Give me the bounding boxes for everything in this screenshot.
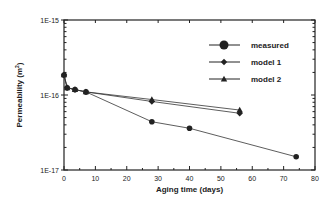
y-tick-label: 1E-17 <box>40 167 59 174</box>
series-line-measured <box>64 75 296 157</box>
x-tick-label: 50 <box>217 175 225 182</box>
x-axis-label: Aging time (days) <box>156 185 223 194</box>
x-tick-label: 60 <box>248 175 256 182</box>
x-tick-label: 70 <box>280 175 288 182</box>
x-tick-label: 10 <box>91 175 99 182</box>
legend-label: model 2 <box>251 75 282 84</box>
legend-diamond-icon <box>221 59 227 65</box>
data-point-measured <box>149 119 155 125</box>
permeability-chart: 010203040506070801E-171E-161E-15Aging ti… <box>0 0 335 210</box>
data-point-measured <box>293 154 299 160</box>
x-tick-label: 30 <box>154 175 162 182</box>
legend-label: measured <box>251 41 289 50</box>
y-tick-label: 1E-16 <box>40 92 59 99</box>
data-point-measured <box>187 125 193 131</box>
y-axis-label: Permeability (m2) <box>14 62 24 127</box>
legend-circle-icon <box>220 41 229 50</box>
x-tick-label: 0 <box>62 175 66 182</box>
y-tick-label: 1E-15 <box>40 17 59 24</box>
x-tick-label: 80 <box>311 175 319 182</box>
x-tick-label: 20 <box>123 175 131 182</box>
series-line-model-2 <box>64 75 240 110</box>
legend-label: model 1 <box>251 58 282 67</box>
x-tick-label: 40 <box>186 175 194 182</box>
